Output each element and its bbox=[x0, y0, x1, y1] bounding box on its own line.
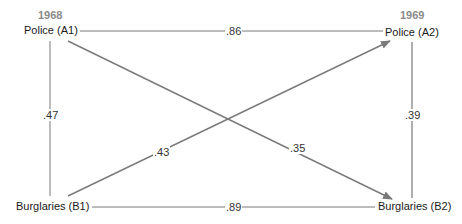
coef-b1-b2: .89 bbox=[225, 201, 242, 213]
path-a1-b2 bbox=[68, 41, 392, 199]
year-1968-label: 1968 bbox=[38, 9, 62, 21]
coef-a1-b2: .35 bbox=[289, 142, 306, 154]
year-1969-label: 1969 bbox=[400, 9, 424, 21]
coef-a2-b2: .39 bbox=[404, 109, 421, 121]
node-burglaries-b2: Burglaries (B2) bbox=[378, 200, 451, 212]
coef-a1-a2: .86 bbox=[225, 25, 242, 37]
node-burglaries-b1: Burglaries (B1) bbox=[16, 200, 89, 212]
node-police-a1: Police (A1) bbox=[24, 24, 78, 36]
coef-b1-a2: .43 bbox=[153, 146, 170, 158]
node-police-a2: Police (A2) bbox=[385, 26, 439, 38]
coef-a1-b1: .47 bbox=[42, 109, 59, 121]
